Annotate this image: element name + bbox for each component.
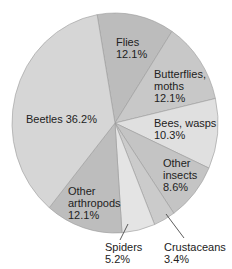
slice-label: Otherinsects8.6% xyxy=(163,157,197,193)
slice-label: Crustaceans3.4% xyxy=(164,241,226,265)
slice-label-line: 12.1% xyxy=(116,48,147,60)
slice-label-line: Spiders xyxy=(105,241,142,253)
slice-label-line: 8.6% xyxy=(163,181,197,193)
slice-label: Spiders5.2% xyxy=(105,241,142,265)
slice-label-line: Butterflies, xyxy=(154,68,206,80)
slice-label: Butterflies,moths12.1% xyxy=(154,68,206,104)
slice-label-line: 5.2% xyxy=(105,253,142,265)
slice-label-line: Beetles 36.2% xyxy=(26,113,97,125)
slice-label-line: Bees, wasps xyxy=(154,117,216,129)
slice-label-line: Flies xyxy=(116,36,147,48)
slice-label-line: 3.4% xyxy=(164,253,226,265)
slice-label: Bees, wasps10.3% xyxy=(154,117,216,141)
slice-label-line: 12.1% xyxy=(68,209,121,221)
slice-label-line: moths xyxy=(154,80,206,92)
slice-label-line: 10.3% xyxy=(154,129,216,141)
slice-label-line: Other xyxy=(163,157,197,169)
slice-label-line: Other xyxy=(68,185,121,197)
slice-label-line: insects xyxy=(163,169,197,181)
slice-label-line: arthropods xyxy=(68,197,121,209)
slice-label: Beetles 36.2% xyxy=(26,113,97,125)
slice-label: Flies12.1% xyxy=(116,36,147,60)
leader-line xyxy=(166,214,184,238)
slice-label-line: Crustaceans xyxy=(164,241,226,253)
slice-label: Otherarthropods12.1% xyxy=(68,185,121,221)
slice-label-line: 12.1% xyxy=(154,92,206,104)
